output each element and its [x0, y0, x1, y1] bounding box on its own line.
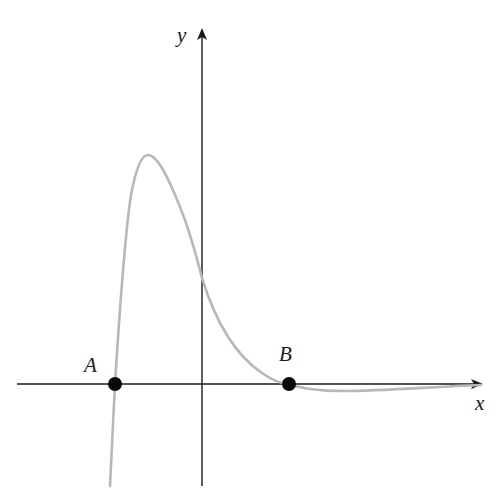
function-graph: y x A B	[0, 0, 503, 500]
point-a-label: A	[82, 353, 97, 377]
point-a	[108, 377, 122, 391]
point-b-label: B	[279, 342, 292, 366]
point-b	[282, 377, 296, 391]
x-axis-label: x	[474, 391, 485, 415]
function-curve	[110, 155, 481, 486]
y-axis-label: y	[175, 23, 187, 47]
